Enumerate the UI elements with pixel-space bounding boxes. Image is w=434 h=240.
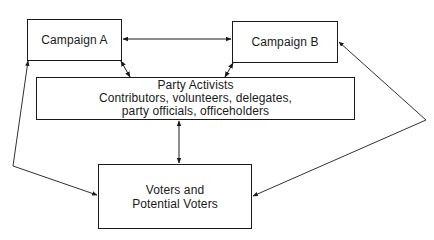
node-campaign-b: Campaign B (232, 21, 338, 63)
arrow-campaign-a-party (121, 61, 130, 77)
node-label-line-2: Potential Voters (132, 197, 218, 211)
diagram-canvas: Campaign A Campaign B Party Activists Co… (0, 0, 434, 240)
node-label-line-1: Voters and (146, 183, 204, 197)
node-party-activists: Party Activists Contributors, volunteers… (36, 77, 355, 120)
arrow-campaign-b-party (225, 63, 233, 77)
node-subtitle-line-2: party officials, officeholders (122, 105, 269, 118)
node-voters: Voters and Potential Voters (98, 164, 252, 229)
node-label: Campaign B (251, 35, 318, 49)
node-campaign-a: Campaign A (27, 19, 122, 61)
node-label: Campaign A (41, 33, 107, 47)
